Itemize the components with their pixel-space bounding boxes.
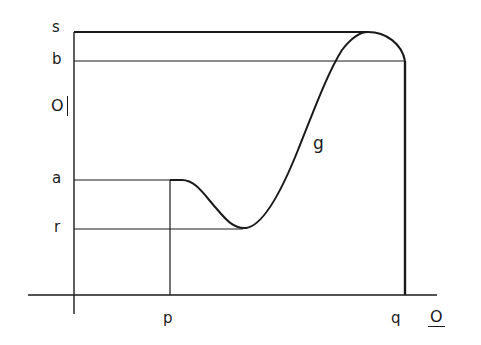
label-q: q [391,311,401,326]
label-r: r [54,220,60,235]
label-b: b [52,52,62,67]
y-axis-label: O [51,96,68,116]
diagram-drawing [0,0,481,345]
y-axis-label-text: O [51,96,64,115]
label-s: s [52,20,60,35]
x-axis-label: O [428,309,445,327]
y-axis-label-bar [67,96,69,116]
diagram: s b a r O p q O g [0,0,481,345]
label-a: a [52,171,61,186]
label-g: g [313,135,324,152]
label-p: p [163,311,173,326]
